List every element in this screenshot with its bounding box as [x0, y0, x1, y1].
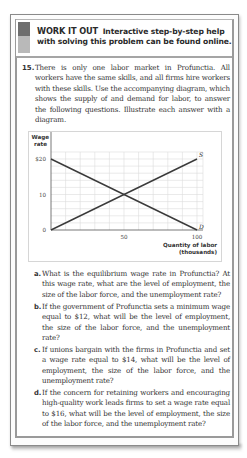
subquestion-text: If the government of Profunctia sets a m… [42, 302, 230, 344]
problem-15: 15. There is only one labor market in Pr… [22, 63, 230, 125]
x-axis-label-line1: Quantity of labor [163, 242, 217, 249]
subquestion-text: If the concern for retaining workers and… [42, 388, 230, 430]
y-tick-0: 0 [42, 227, 46, 233]
header-text: WORK IT OUT Interactive step-by-step hel… [37, 26, 232, 47]
x-tick-50: 50 [120, 234, 128, 240]
subquestion-c: c. If unions bargain with the firms in P… [34, 345, 230, 387]
x-tick-100: 100 [192, 234, 203, 240]
demand-label: D [198, 223, 204, 230]
header-lead: WORK IT OUT [37, 26, 98, 36]
y-tick-20: $20 [35, 156, 46, 162]
subquestion-letter: d. [34, 388, 41, 398]
labor-market-chart: Wage rate $20 10 0 50 100 S D Quantity o… [28, 131, 222, 262]
subquestion-d: d. If the concern for retaining workers … [34, 388, 230, 430]
y-axis-label-line2: rate [34, 141, 47, 147]
subquestion-text: What is the equilibrium wage rate in Pro… [42, 269, 230, 300]
subquestion-a: a. What is the equilibrium wage rate in … [34, 269, 230, 300]
y-tick-10: 10 [39, 192, 47, 198]
x-axis-label-line2: (thousands) [179, 249, 217, 255]
work-it-out-header: WORK IT OUT Interactive step-by-step hel… [16, 20, 232, 58]
subquestion-letter: c. [34, 345, 41, 355]
problem-text: There is only one labor market in Profun… [35, 63, 230, 125]
header-tab-dark-block [18, 22, 30, 36]
subquestion-text: If unions bargain with the firms in Prof… [42, 345, 230, 387]
supply-demand-diagram: Wage rate $20 10 0 50 100 S D Quantity o… [29, 132, 221, 261]
problem-number: 15. [22, 63, 34, 73]
header-tab-light-block [18, 36, 30, 53]
supply-label: S [199, 151, 203, 158]
subquestion-b: b. If the government of Profunctia sets … [34, 302, 230, 344]
y-axis-label-line1: Wage [31, 134, 49, 141]
subquestion-letter: b. [34, 302, 41, 312]
subquestion-letter: a. [34, 269, 41, 279]
